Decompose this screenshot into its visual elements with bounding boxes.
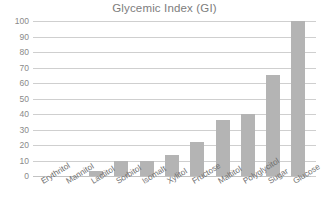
- bar: [291, 21, 305, 176]
- y-tick-label: 30: [3, 126, 29, 135]
- y-tick-mark: [311, 52, 316, 53]
- gridline: [33, 68, 311, 69]
- gridline: [33, 37, 311, 38]
- y-tick-label: 60: [3, 79, 29, 88]
- chart-title: Glycemic Index (GI): [0, 2, 329, 14]
- y-tick-label: 80: [3, 48, 29, 57]
- y-tick-mark: [311, 161, 316, 162]
- y-tick-mark: [311, 114, 316, 115]
- y-tick-label: 20: [3, 141, 29, 150]
- y-tick-label: 70: [3, 64, 29, 73]
- glycemic-index-bar-chart: Glycemic Index (GI) 01020304050607080901…: [0, 0, 329, 223]
- y-tick-mark: [311, 130, 316, 131]
- y-tick-label: 40: [3, 110, 29, 119]
- y-tick-mark: [311, 99, 316, 100]
- y-tick-mark: [311, 83, 316, 84]
- y-tick-mark: [311, 68, 316, 69]
- y-tick-mark: [311, 21, 316, 22]
- y-tick-mark: [311, 37, 316, 38]
- gridline: [33, 52, 311, 53]
- y-tick-label: 10: [3, 157, 29, 166]
- y-tick-label: 90: [3, 33, 29, 42]
- y-axis: 0102030405060708090100: [0, 21, 29, 176]
- y-tick-label: 50: [3, 95, 29, 104]
- y-tick-mark: [311, 145, 316, 146]
- y-tick-label: 0: [3, 172, 29, 181]
- gridline: [33, 21, 311, 22]
- plot-area: [33, 21, 311, 176]
- bar: [241, 114, 255, 176]
- x-axis: ErythritolMannitolLactitolSorbitolIsomal…: [33, 176, 329, 223]
- y-tick-label: 100: [3, 17, 29, 26]
